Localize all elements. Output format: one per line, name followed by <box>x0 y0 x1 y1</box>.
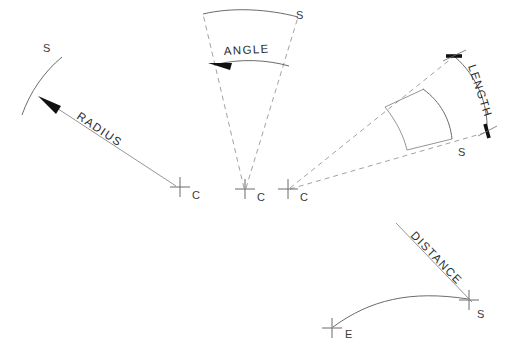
distance-curve <box>333 296 468 327</box>
angle-center-label: C <box>257 191 265 203</box>
panel-radius: S C RADIUS <box>22 42 200 201</box>
length-center-label: C <box>300 191 308 203</box>
length-start-label: S <box>458 146 466 158</box>
length-band-top-edge <box>385 89 424 107</box>
distance-end-cross <box>322 318 342 338</box>
length-inner-arc <box>423 89 452 139</box>
panel-length: S C LENGTH <box>278 50 497 203</box>
distance-start-cross <box>459 290 479 310</box>
panel-angle: S C ANGLE <box>203 9 304 203</box>
angle-start-label: S <box>296 9 304 21</box>
distance-start-label: S <box>477 308 485 320</box>
length-lower-radius <box>290 133 484 189</box>
distance-end-label: E <box>345 328 353 340</box>
angle-left-radius <box>203 14 244 188</box>
curve-definition-diagram: S C RADIUS S C ANGLE <box>0 0 508 361</box>
radius-arrowhead <box>38 96 61 114</box>
radius-dimension-label: RADIUS <box>75 110 125 149</box>
angle-dimension-label: ANGLE <box>223 43 270 57</box>
length-upper-radius <box>290 58 452 188</box>
radius-start-label: S <box>43 42 51 54</box>
angle-center-cross <box>235 179 255 199</box>
angle-outer-arc <box>203 10 298 17</box>
length-band-inner-arc <box>385 107 407 150</box>
length-dimension-label: LENGTH <box>466 63 494 119</box>
angle-arrowhead <box>208 63 232 70</box>
panel-distance: E S DISTANCE <box>322 223 485 340</box>
length-center-cross <box>278 179 298 199</box>
distance-dimension-label: DISTANCE <box>409 229 465 287</box>
radius-center-label: C <box>192 189 200 201</box>
diagram-canvas: S C RADIUS S C ANGLE <box>0 0 508 361</box>
radius-center-cross <box>170 177 190 197</box>
